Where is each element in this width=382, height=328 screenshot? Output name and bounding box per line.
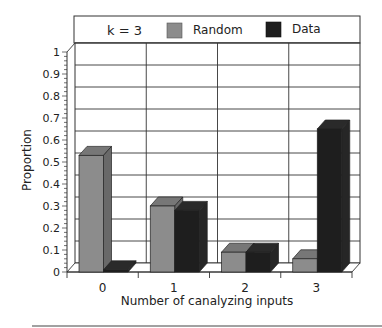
bar-data-1 (175, 201, 208, 272)
x-tick-label: 0 (99, 281, 107, 295)
y-axis-label: Proportion (20, 129, 34, 191)
legend-label-random: Random (193, 23, 243, 37)
legend-swatch-random (167, 23, 182, 38)
bar-data-3 (317, 120, 350, 272)
y-tick-label: 0.3 (43, 200, 61, 213)
y-tick-label: 0.8 (43, 90, 61, 103)
y-tick-label: 1 (53, 46, 60, 59)
x-tick-label: 3 (313, 281, 321, 295)
legend-title: k = 3 (107, 23, 142, 38)
y-tick-label: 0 (53, 266, 60, 279)
legend-label-data: Data (292, 22, 321, 36)
x-tick-label: 2 (241, 281, 249, 295)
y-tick-label: 0.4 (43, 178, 61, 191)
bar-random-0 (79, 146, 112, 272)
x-axis: 0123 (67, 272, 352, 295)
y-tick-label: 0.1 (43, 244, 61, 257)
x-axis-label: Number of canalyzing inputs (121, 294, 294, 308)
y-tick-label: 0.2 (43, 222, 61, 235)
y-tick-label: 0.5 (43, 156, 61, 169)
bar-data-2 (246, 243, 279, 272)
y-tick-label: 0.6 (43, 134, 61, 147)
y-axis: 00.10.20.30.40.50.60.70.80.91 (43, 46, 68, 279)
y-tick-label: 0.9 (43, 68, 61, 81)
legend: k = 3 Random Data (74, 16, 360, 43)
legend-swatch-data (266, 22, 281, 37)
y-tick-label: 0.7 (43, 112, 61, 125)
x-tick-label: 1 (170, 281, 178, 295)
bar-chart: k = 3 Random Data 00.10.20.30.40.50.60.7… (0, 0, 382, 328)
